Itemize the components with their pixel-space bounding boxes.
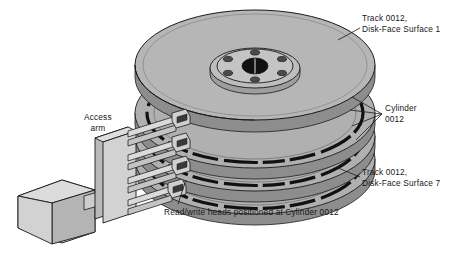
actuator-front-face xyxy=(18,196,52,244)
label-access-arm: Access arm xyxy=(84,112,112,133)
hub-bolt-hole xyxy=(277,70,286,75)
hub-bolt-hole xyxy=(223,56,232,61)
spindle-hub xyxy=(210,48,300,94)
disk-pack-diagram: Track 0012, Disk-Face Surface 1 Cylinder… xyxy=(0,0,454,280)
label-cylinder: Cylinder 0012 xyxy=(385,103,417,124)
label-track-top-surface: Track 0012, Disk-Face Surface 1 xyxy=(362,13,440,34)
disk-pack-illustration xyxy=(0,0,454,280)
label-read-write-heads: Read/write heads positioned at Cylinder … xyxy=(164,207,339,218)
platter-1 xyxy=(135,10,375,132)
hub-bolt-hole xyxy=(250,50,259,55)
hub-bolt-hole xyxy=(223,70,232,75)
hub-bolt-hole xyxy=(277,56,286,61)
hub-bolt-hole xyxy=(250,77,259,82)
actuator-block xyxy=(18,180,95,244)
label-track-bottom-surface: Track 0012, Disk-Face Surface 7 xyxy=(362,167,440,188)
